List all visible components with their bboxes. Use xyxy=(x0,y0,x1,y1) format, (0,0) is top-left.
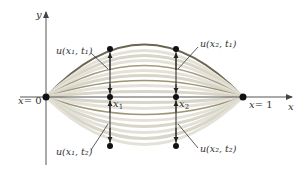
point-u-x1-t2 xyxy=(107,143,113,149)
point-u-x1-t1 xyxy=(107,46,113,52)
string-curves xyxy=(46,45,243,145)
point-right-endpoint xyxy=(240,94,247,101)
x1-label: x1 xyxy=(113,98,123,111)
point-u-x2-t2 xyxy=(173,143,179,149)
label-u-x1-t2: u(x₁, t₂) xyxy=(56,146,93,157)
label-u-x2-t1: u(x₂, t₁) xyxy=(200,38,237,49)
label-u-x1-t1: u(x₁, t₁) xyxy=(56,45,93,56)
y-axis-label: y xyxy=(35,9,42,20)
string-vibration-diagram: y x x= 0 x= 1 x1 x2 u(x₁, t₁) u(x₂, t₁) … xyxy=(0,0,307,172)
x-axis-label: x xyxy=(288,101,294,112)
right-endpoint-label: x= 1 xyxy=(249,99,273,110)
point-u-x2-t1 xyxy=(173,46,179,52)
label-u-x2-t2: u(x₂, t₂) xyxy=(200,143,237,154)
point-left-endpoint xyxy=(43,94,50,101)
left-endpoint-label: x= 0 xyxy=(18,95,42,106)
